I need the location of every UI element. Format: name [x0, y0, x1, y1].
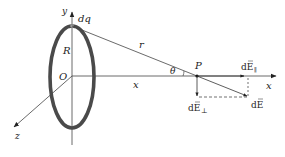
svg-text:dE: dE [251, 100, 263, 110]
dE-parallel-label: dE ∥ [241, 61, 257, 73]
ring-field-diagram: y dq R O r x θ P x z dE ∥ dE ⊥ dE [0, 0, 285, 157]
distance-r-label: r [139, 39, 145, 50]
z-axis-label: z [14, 131, 20, 141]
x-axis-label: x [266, 80, 272, 91]
svg-text:dE: dE [188, 103, 200, 113]
svg-text:dE: dE [241, 62, 253, 72]
distance-x-label: x [133, 79, 139, 90]
radius-label: R [62, 45, 71, 56]
point-P-label: P [194, 60, 202, 71]
charge-element-label: dq [78, 13, 91, 24]
z-axis [14, 76, 72, 127]
dE-perp-label: dE ⊥ [188, 102, 208, 115]
svg-text:∥: ∥ [254, 66, 257, 73]
svg-text:⊥: ⊥ [201, 107, 208, 115]
dE-total-label: dE [251, 99, 263, 110]
dE-total-arrow [197, 76, 247, 96]
y-axis-label: y [61, 6, 68, 16]
angle-label: θ [170, 66, 176, 76]
angle-arc [183, 71, 184, 76]
origin-label: O [59, 71, 67, 82]
